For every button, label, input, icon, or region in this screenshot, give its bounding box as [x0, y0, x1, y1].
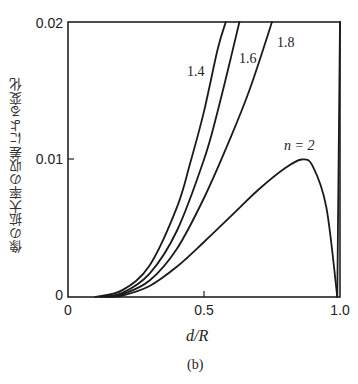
curve-1.6 — [101, 22, 240, 297]
figure-caption: (b) — [187, 357, 203, 373]
curve-label-n2: n = 2 — [284, 138, 314, 153]
curve-label-1.6: 1.6 — [239, 51, 257, 66]
ytick-label-0.01: 0.01 — [36, 151, 63, 167]
curve-1.4 — [95, 22, 226, 297]
xtick-label-1.0: 1.0 — [330, 302, 350, 318]
y-axis-label: 像の拡大率の収差による変化 — [6, 40, 26, 290]
chart-svg: 0.02 0.01 0 0 0.5 1.0 1.4 1.6 1.8 n = 2 — [0, 0, 358, 384]
ytick-label-0: 0 — [55, 287, 63, 303]
x-axis-label: d/R — [186, 327, 208, 345]
ytick-label-0.02: 0.02 — [36, 15, 63, 31]
curve-label-1.8: 1.8 — [277, 35, 295, 50]
curve-group — [95, 22, 340, 297]
xtick-label-0: 0 — [64, 302, 72, 318]
xtick-label-0.5: 0.5 — [194, 302, 214, 318]
curve-label-1.4: 1.4 — [187, 64, 205, 79]
curve-n2 — [109, 159, 337, 297]
